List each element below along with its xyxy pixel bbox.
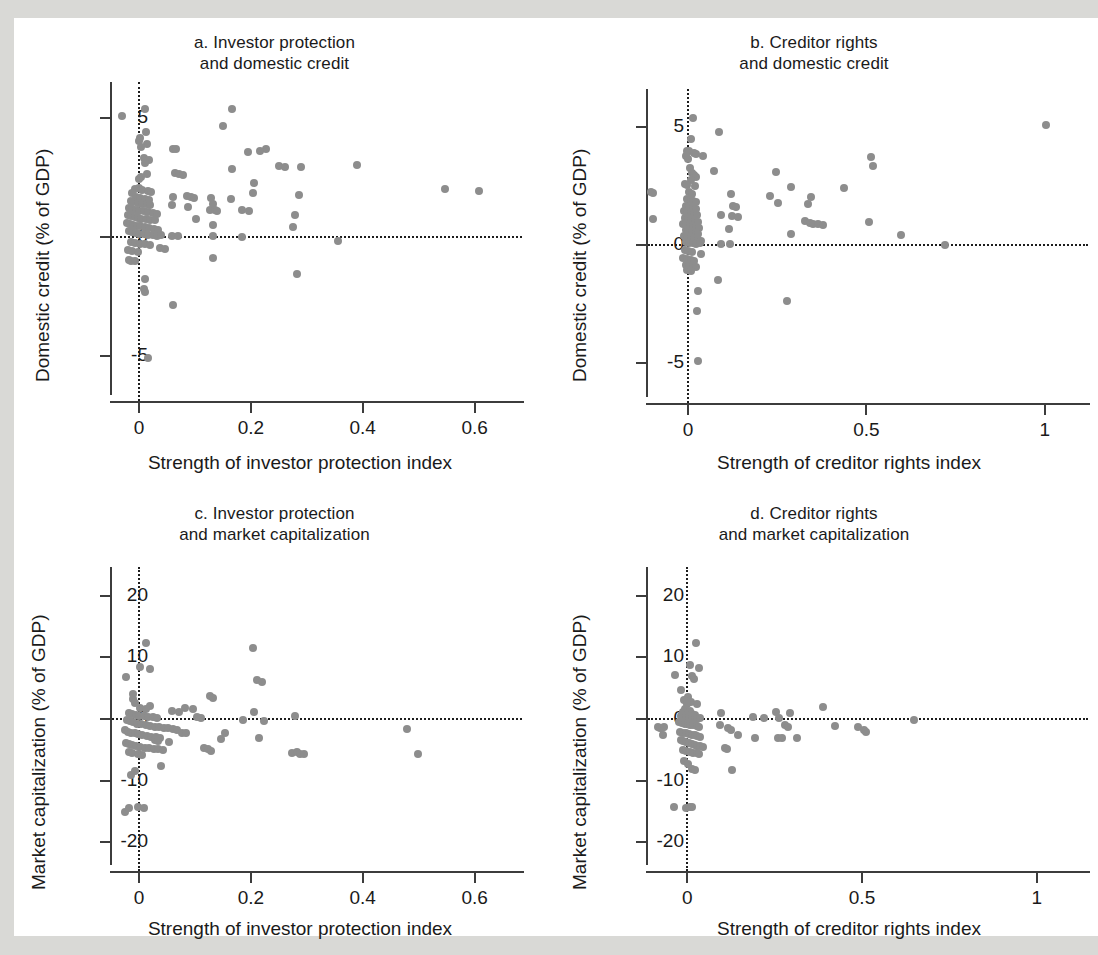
- data-point: [840, 184, 848, 192]
- data-point: [714, 276, 722, 284]
- data-point: [249, 189, 257, 197]
- data-point: [1042, 121, 1050, 129]
- data-point: [941, 241, 949, 249]
- data-point: [774, 199, 782, 207]
- x-axis-spine: [110, 401, 524, 403]
- data-point: [693, 700, 701, 708]
- data-point: [142, 639, 150, 647]
- y-tick-label: -10: [624, 769, 684, 791]
- data-point: [869, 162, 877, 170]
- data-point: [249, 644, 257, 652]
- data-point: [300, 750, 308, 758]
- x-tick: [687, 403, 689, 415]
- data-point: [245, 207, 253, 215]
- panel-d: d. Creditor rights and market capitaliza…: [549, 478, 1098, 955]
- data-point: [787, 183, 795, 191]
- data-point: [169, 301, 177, 309]
- panel-c-ylabel: Market capitalization (% of GDP): [28, 614, 50, 890]
- data-point: [256, 147, 264, 155]
- data-point: [475, 187, 483, 195]
- x-tick-label: 0.6: [461, 887, 487, 909]
- data-point: [228, 105, 236, 113]
- data-point: [227, 195, 235, 203]
- x-tick: [250, 871, 252, 883]
- data-point: [118, 112, 126, 120]
- data-point: [688, 803, 696, 811]
- data-point: [281, 163, 289, 171]
- data-point: [699, 152, 707, 160]
- x-tick-label: 0.5: [853, 419, 879, 441]
- data-point: [291, 211, 299, 219]
- data-point: [831, 722, 839, 730]
- data-point: [219, 122, 227, 130]
- data-point: [696, 239, 704, 247]
- x-tick-label: 0: [134, 417, 145, 439]
- x-tick: [865, 403, 867, 415]
- y-tick-label: -5: [624, 351, 684, 373]
- data-point: [897, 231, 905, 239]
- data-point: [717, 211, 725, 219]
- data-point: [732, 203, 740, 211]
- data-point: [716, 721, 724, 729]
- panel-b-plot: 50-500.51: [646, 95, 1076, 395]
- x-tick: [686, 871, 688, 883]
- data-point: [182, 729, 190, 737]
- panel-c: c. Investor protection and market capita…: [0, 478, 549, 955]
- data-point: [147, 188, 155, 196]
- panel-b-ylabel: Domestic credit (% of GDP): [569, 149, 591, 382]
- data-point: [717, 240, 725, 248]
- data-point: [786, 709, 794, 717]
- data-point: [867, 153, 875, 161]
- data-point: [659, 731, 667, 739]
- panel-c-title-line2: and market capitalization: [0, 524, 549, 545]
- data-point: [144, 354, 152, 362]
- data-point: [793, 734, 801, 742]
- data-point: [671, 671, 679, 679]
- data-point: [157, 231, 165, 239]
- x-tick-label: 0.4: [350, 417, 376, 439]
- data-point: [734, 731, 742, 739]
- panel-d-plot: 20100-10-2000.51: [646, 573, 1076, 863]
- data-point: [649, 215, 657, 223]
- x-tick: [1044, 403, 1046, 415]
- data-point: [760, 714, 768, 722]
- data-point: [686, 661, 694, 669]
- data-point: [137, 143, 145, 151]
- x-tick: [362, 401, 364, 413]
- panel-a-title-line2: and domestic credit: [0, 53, 549, 74]
- data-point: [784, 723, 792, 731]
- data-point: [727, 190, 735, 198]
- data-point: [175, 708, 183, 716]
- data-point: [239, 716, 247, 724]
- data-point: [260, 717, 268, 725]
- panel-a-title-line1: a. Investor protection: [0, 32, 549, 53]
- data-point: [146, 241, 154, 249]
- data-point: [213, 207, 221, 215]
- data-point: [751, 734, 759, 742]
- data-point: [783, 297, 791, 305]
- data-point: [258, 678, 266, 686]
- data-point: [695, 750, 703, 758]
- data-point: [174, 232, 182, 240]
- data-point: [749, 713, 757, 721]
- data-point: [772, 168, 780, 176]
- x-tick: [861, 871, 863, 883]
- data-point: [154, 737, 162, 745]
- y-tick-label: 10: [624, 645, 684, 667]
- panel-a-ylabel: Domestic credit (% of GDP): [32, 149, 54, 382]
- data-point: [414, 750, 422, 758]
- data-point: [862, 728, 870, 736]
- data-point: [165, 738, 173, 746]
- data-point: [125, 804, 133, 812]
- data-point: [135, 175, 143, 183]
- data-point: [138, 751, 146, 759]
- data-point: [910, 716, 918, 724]
- data-point: [127, 771, 135, 779]
- data-point: [209, 232, 217, 240]
- data-point: [289, 223, 297, 231]
- data-point: [297, 163, 305, 171]
- y-tick-label: 5: [624, 115, 684, 137]
- data-point: [697, 250, 705, 258]
- x-axis-spine: [110, 871, 524, 873]
- x-tick: [474, 871, 476, 883]
